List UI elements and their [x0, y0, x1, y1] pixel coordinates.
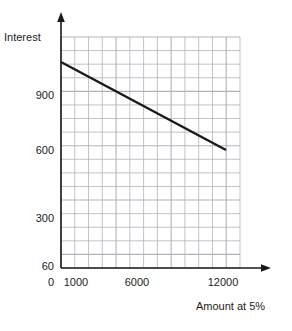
chart-container: Interest Amount at 5% 900 600 300 60 0 1…: [0, 0, 292, 331]
grid-lines: [61, 37, 240, 268]
x-axis-arrow-icon: [261, 264, 271, 272]
y-axis-arrow-icon: [57, 12, 65, 22]
plot-area: [0, 0, 292, 331]
